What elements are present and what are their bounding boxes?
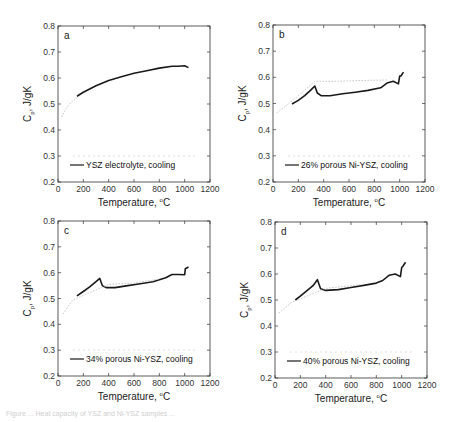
y-tick-label: 0.5 [258,99,270,109]
x-tick-label: 600 [344,380,358,390]
heating-curve-faint [277,80,387,113]
chart-panel-d: 0.20.30.40.50.60.70.80200400600800100012… [239,217,437,404]
figure-caption: Figure ... Heat capacity of YSZ and Ni-Y… [6,410,175,417]
x-tick-label: 200 [76,378,90,388]
x-tick-label: 600 [127,378,141,388]
cooling-curve [77,66,189,96]
panel-letter: c [64,225,69,236]
x-tick-label: 1200 [201,378,220,388]
x-tick-label: 0 [271,184,276,194]
x-axis-label: Temperature, oC [315,393,387,404]
plot-frame [275,222,427,378]
y-axis-label: Cp, J/gK [237,85,250,121]
y-tick-label: 0.4 [43,319,55,329]
x-tick-label: 400 [317,184,331,194]
cooling-curve [292,72,404,104]
y-tick-label: 0.3 [258,151,270,161]
y-tick-label: 0.2 [43,371,55,381]
y-axis-label: Cp, J/gK [22,86,35,122]
plot-frame [58,221,210,376]
x-tick-label: 0 [273,380,278,390]
y-tick-label: 0.5 [43,294,55,304]
y-axis-label: Cp, J/gK [22,280,35,316]
x-tick-label: 1000 [175,378,194,388]
legend-label: 26% porous Ni-YSZ, cooling [301,160,408,170]
y-tick-label: 0.6 [43,268,55,278]
panel-letter: a [64,30,70,41]
plot-frame [273,25,425,182]
cooling-curve [77,267,189,296]
y-tick-label: 0.3 [43,345,55,355]
x-tick-label: 800 [152,184,166,194]
x-tick-label: 200 [76,184,90,194]
x-tick-label: 800 [152,378,166,388]
x-tick-label: 400 [102,184,116,194]
x-tick-label: 200 [291,184,305,194]
y-tick-label: 0.5 [43,99,55,109]
y-tick-label: 0.2 [260,373,272,383]
y-tick-label: 0.6 [260,269,272,279]
x-tick-label: 1000 [175,184,194,194]
y-tick-label: 0.6 [258,72,270,82]
panel-letter: d [281,226,287,237]
y-tick-label: 0.7 [43,242,55,252]
x-axis-label: Temperature, oC [98,197,170,208]
x-tick-label: 800 [369,380,383,390]
y-tick-label: 0.2 [43,177,55,187]
cooling-curve [295,262,405,300]
x-tick-label: 400 [319,380,333,390]
x-tick-label: 600 [342,184,356,194]
x-tick-label: 0 [56,184,61,194]
x-axis-label: Temperature, oC [98,391,170,402]
legend-label: YSZ electrolyte, cooling [86,160,176,170]
x-tick-label: 1000 [390,184,409,194]
legend-label: 34% porous Ni-YSZ, cooling [86,354,193,364]
x-tick-label: 1000 [392,380,411,390]
x-tick-label: 600 [127,184,141,194]
chart-panel-b: 0.20.30.40.50.60.70.80200400600800100012… [237,20,435,208]
y-tick-label: 0.6 [43,73,55,83]
chart-panel-a: 0.20.30.40.50.60.70.80200400600800100012… [22,21,220,208]
y-tick-label: 0.7 [260,243,272,253]
chart-panel-c: 0.20.30.40.50.60.70.80200400600800100012… [22,216,220,402]
figure-canvas: 0.20.30.40.50.60.70.80200400600800100012… [0,0,455,422]
x-tick-label: 0 [56,378,61,388]
legend-label: 40% porous Ni-YSZ, cooling [303,356,410,366]
y-tick-label: 0.7 [258,46,270,56]
y-tick-label: 0.4 [258,125,270,135]
x-tick-label: 200 [293,380,307,390]
y-tick-label: 0.8 [258,20,270,30]
x-tick-label: 1200 [201,184,220,194]
y-tick-label: 0.3 [260,347,272,357]
y-tick-label: 0.8 [260,217,272,227]
heating-curve-faint [62,98,77,118]
y-axis-label: Cp, J/gK [239,282,252,318]
plot-frame [58,26,210,182]
y-tick-label: 0.8 [43,21,55,31]
y-tick-label: 0.4 [260,321,272,331]
y-tick-label: 0.7 [43,47,55,57]
y-tick-label: 0.4 [43,125,55,135]
x-tick-label: 400 [102,378,116,388]
y-tick-label: 0.2 [258,177,270,187]
panel-letter: b [279,29,285,40]
heating-curve-faint [63,279,159,314]
x-tick-label: 1200 [416,184,435,194]
y-tick-label: 0.5 [260,295,272,305]
x-axis-label: Temperature, oC [313,197,385,208]
x-tick-label: 1200 [418,380,437,390]
y-tick-label: 0.8 [43,216,55,226]
x-tick-label: 800 [367,184,381,194]
y-tick-label: 0.3 [43,151,55,161]
